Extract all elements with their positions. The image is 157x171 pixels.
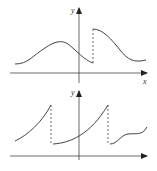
- top-graph: y x: [10, 6, 147, 86]
- top-y-label: y: [70, 6, 75, 15]
- bottom-curve-2: [53, 105, 108, 144]
- top-curve-right: [93, 29, 146, 61]
- bottom-y-label: y: [70, 88, 75, 97]
- function-graphs-diagram: y x y: [0, 0, 157, 171]
- bottom-graph: y: [10, 88, 147, 160]
- bottom-curve-3: [110, 127, 147, 144]
- top-x-label: x: [142, 77, 147, 86]
- top-curve-left: [15, 42, 93, 64]
- bottom-curve-1: [15, 105, 51, 141]
